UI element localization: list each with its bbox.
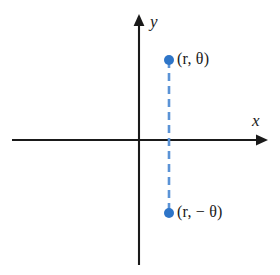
polar-coordinates-figure: y x (r, θ) (r, − θ) [0, 0, 280, 275]
point-lower-label: (r, − θ) [177, 204, 223, 220]
point-upper-label: (r, θ) [177, 51, 209, 67]
y-axis-label: y [150, 13, 158, 30]
x-axis-arrowhead [256, 135, 268, 146]
point-upper-marker [164, 55, 174, 65]
plot-canvas [0, 0, 280, 275]
y-axis-arrowhead [134, 14, 145, 26]
point-lower-marker [164, 208, 174, 218]
x-axis-label: x [252, 112, 260, 129]
